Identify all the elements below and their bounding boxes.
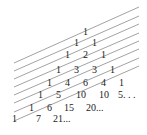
triangle-entry: 1 [74, 37, 79, 48]
triangle-numbers: 1111211331146411510105. . .161520...1721… [12, 26, 136, 124]
triangle-entry: 15 [64, 102, 74, 113]
triangle-entry: 4 [101, 77, 106, 88]
triangle-entry: 2 [83, 49, 88, 60]
triangle-entry: 1 [56, 64, 61, 75]
diagonal-line [14, 7, 139, 63]
triangle-entry: 10 [76, 89, 86, 100]
pascal-triangle-diagram: 1111211331146411510105. . .161520...1721… [0, 0, 147, 135]
triangle-entry: 1 [92, 37, 97, 48]
triangle-entry: 1 [47, 77, 52, 88]
triangle-entry: 3 [92, 64, 97, 75]
triangle-entry: 1 [65, 49, 70, 60]
triangle-entry: 4 [65, 77, 70, 88]
triangle-entry: 5 [56, 89, 61, 100]
triangle-entry: 6 [83, 77, 88, 88]
triangle-entry: 7 [36, 113, 41, 124]
triangle-entry: 1 [119, 77, 124, 88]
triangle-entry: 1 [101, 49, 106, 60]
triangle-entry: 1 [83, 26, 88, 37]
triangle-entry: 21... [53, 113, 71, 124]
triangle-entry: 1 [38, 89, 43, 100]
diagram-canvas: 1111211331146411510105. . .161520...1721… [0, 0, 147, 135]
triangle-entry: 5. . . [118, 89, 136, 100]
triangle-entry: 1 [12, 113, 17, 124]
triangle-entry: 3 [74, 64, 79, 75]
triangle-entry: 1 [29, 102, 34, 113]
triangle-entry: 20... [86, 102, 104, 113]
triangle-entry: 6 [47, 102, 52, 113]
triangle-entry: 1 [110, 64, 115, 75]
triangle-entry: 10 [99, 89, 109, 100]
